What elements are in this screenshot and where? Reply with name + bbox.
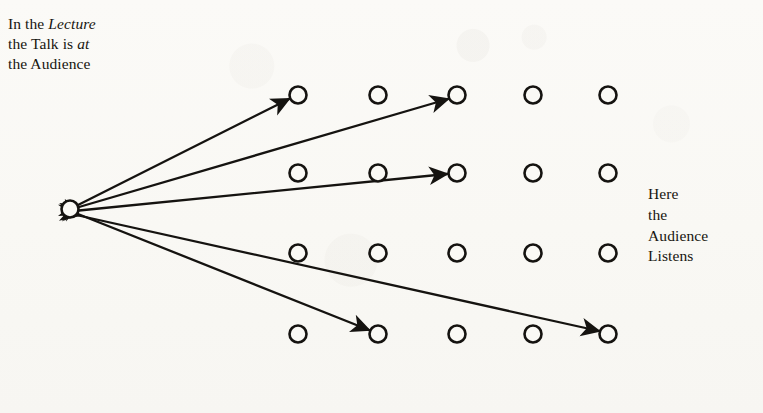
figure-page: In the Lecture the Talk is at the Audien… [0, 0, 763, 413]
audience-node-r4c5 [600, 326, 617, 343]
audience-node-r4c2 [370, 326, 387, 343]
audience-node-r4c1 [290, 326, 307, 343]
audience-node-r1c1 [290, 87, 307, 104]
lecture-label-line2-emphasis: at [77, 35, 89, 52]
audience-label-line2: the [648, 206, 667, 223]
audience-node-r3c2 [370, 245, 387, 262]
speaker-node-group [62, 201, 79, 218]
audience-label-line3: Audience [648, 227, 708, 244]
lecture-label-line2-a: the Talk is [8, 35, 77, 52]
audience-node-r2c3 [449, 165, 466, 182]
audience-node-r1c2 [370, 87, 387, 104]
audience-node-r2c4 [525, 165, 542, 182]
audience-node-r2c5 [600, 165, 617, 182]
audience-label-line1: Here [648, 185, 679, 202]
audience-grid [290, 87, 617, 343]
audience-node-r3c4 [525, 245, 542, 262]
ray-to-row4-col2 [78, 214, 369, 330]
ray-to-row1-col3 [79, 99, 448, 207]
ray-to-row4-col5 [79, 216, 600, 332]
audience-node-r1c4 [525, 87, 542, 104]
audience-node-r2c2 [370, 165, 387, 182]
audience-node-r1c3 [449, 87, 466, 104]
speaker-node [62, 201, 79, 218]
audience-node-r3c1 [290, 245, 307, 262]
lecture-label: In the Lecture the Talk is at the Audien… [8, 14, 96, 73]
audience-label: Here the Audience Listens [648, 184, 708, 267]
audience-node-r3c5 [600, 245, 617, 262]
lecture-label-line1-emphasis: Lecture [48, 15, 95, 32]
ray-group [78, 99, 599, 331]
audience-node-r2c1 [290, 165, 307, 182]
ray-to-row2-col3 [79, 174, 447, 211]
audience-node-r3c3 [449, 245, 466, 262]
audience-label-line4: Listens [648, 247, 693, 264]
lecture-label-line1-a: In the [8, 15, 48, 32]
audience-node-r1c5 [600, 87, 617, 104]
audience-node-r4c3 [449, 326, 466, 343]
audience-node-r4c4 [525, 326, 542, 343]
ray-to-row1-col1 [78, 99, 289, 205]
lecture-label-line3: the Audience [8, 55, 91, 72]
